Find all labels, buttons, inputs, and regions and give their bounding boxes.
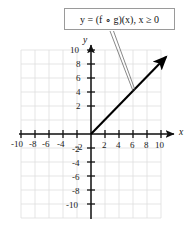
callout-leader-line [110, 31, 135, 91]
y-tick-label: -10 [66, 201, 78, 210]
x-tick-label: -8 [29, 140, 37, 149]
y-tick-label: 2 [76, 102, 81, 111]
y-tick-label: 4 [76, 88, 81, 97]
equation-callout-box: y = (f ∘ g)(x), x ≥ 0 [64, 8, 175, 30]
y-tick-label: 10 [70, 46, 79, 55]
y-tick-label: -4 [72, 159, 80, 168]
x-tick-label: 2 [102, 141, 107, 150]
x-tick-label: 8 [144, 141, 149, 150]
x-tick-label: 6 [130, 141, 135, 150]
y-tick-label: 6 [76, 74, 81, 83]
x-tick-label: -6 [42, 140, 50, 149]
x-tick-label: -10 [11, 140, 23, 149]
y-axis-label: y [83, 36, 87, 46]
function-ray [91, 57, 166, 134]
axes [19, 45, 174, 219]
y-tick-label: -8 [72, 187, 80, 196]
y-tick-label: -2 [72, 145, 80, 154]
coordinate-plane [0, 0, 189, 232]
equation-callout-label: y = (f ∘ g)(x), x ≥ 0 [80, 14, 159, 25]
x-axis-label: x [179, 128, 183, 138]
y-tick-label: 8 [76, 60, 81, 69]
x-tick-label: 4 [116, 141, 121, 150]
y-tick-label: -6 [72, 173, 80, 182]
x-tick-label: -4 [57, 140, 65, 149]
figure-container: -10 -8 -6 -4 -2 2 4 6 8 10 10 8 6 4 2 -2… [0, 0, 189, 232]
x-tick-label: 10 [155, 141, 164, 150]
